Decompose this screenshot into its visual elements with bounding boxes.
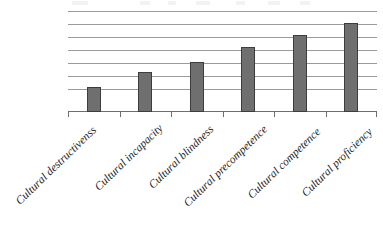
x-label-1: Cultural destructivenss: [13, 124, 98, 207]
bar-slot-2: [120, 8, 172, 112]
bars-layer: [68, 8, 377, 112]
bar-slot-5: [274, 8, 326, 112]
bar-cultural-blindness: [190, 62, 204, 112]
bar-cultural-precompetence: [241, 47, 255, 112]
bar-chart: Cultural destructivenss Cultural incapac…: [0, 0, 383, 225]
plot-area: [68, 8, 377, 112]
cropped-title-artifacts: [0, 0, 383, 7]
bar-cultural-incapacity: [138, 72, 152, 112]
bar-cultural-destructivenss: [87, 87, 101, 112]
bar-slot-4: [223, 8, 275, 112]
category-labels: Cultural destructivenss Cultural incapac…: [0, 112, 383, 225]
bar-cultural-proficiency: [344, 23, 358, 112]
bar-slot-3: [171, 8, 223, 112]
bar-slot-6: [326, 8, 378, 112]
bar-slot-1: [68, 8, 120, 112]
bar-cultural-competence: [293, 35, 307, 112]
